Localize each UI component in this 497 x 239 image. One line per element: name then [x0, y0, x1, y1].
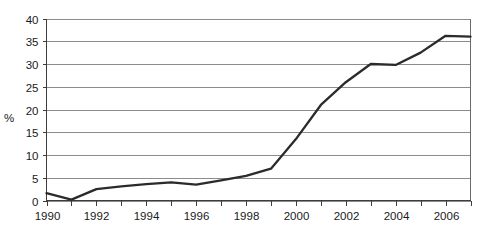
y-tick-label: 40 — [26, 14, 39, 26]
y-tick-label: 30 — [26, 59, 39, 71]
x-tick-label: 1990 — [35, 210, 61, 222]
line-chart: 0510152025303540 19901992199419961998200… — [0, 0, 497, 239]
y-tick-label: 0 — [32, 196, 38, 208]
x-tick-label: 2002 — [334, 210, 360, 222]
x-tick-label: 2006 — [434, 210, 460, 222]
y-tick-label: 15 — [26, 127, 39, 139]
x-tick-label: 1998 — [234, 210, 260, 222]
x-tick-label: 2000 — [284, 210, 310, 222]
chart-background — [0, 0, 497, 239]
chart-canvas: 0510152025303540 19901992199419961998200… — [0, 0, 497, 239]
y-tick-label: 35 — [26, 36, 39, 48]
x-axis-tick-labels: 199019921994199619982000200220042006 — [35, 210, 460, 222]
y-tick-label: 25 — [26, 82, 39, 94]
x-tick-label: 1992 — [84, 210, 110, 222]
x-tick-label: 1994 — [134, 210, 160, 222]
y-axis-title: % — [4, 112, 14, 124]
y-tick-label: 10 — [26, 150, 39, 162]
x-tick-label: 2004 — [384, 210, 410, 222]
y-tick-label: 5 — [32, 173, 38, 185]
x-tick-label: 1996 — [184, 210, 210, 222]
y-tick-label: 20 — [26, 105, 39, 117]
